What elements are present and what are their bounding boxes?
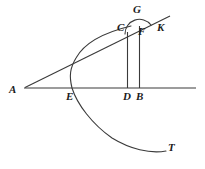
- label-point-k: K: [157, 22, 164, 33]
- parabola-curve-e-to-t: [70, 26, 166, 152]
- label-point-b: B: [136, 91, 143, 102]
- line-a-to-k: [25, 16, 170, 88]
- label-point-g: G: [133, 4, 141, 15]
- label-point-f: F: [138, 26, 145, 37]
- label-point-d: D: [123, 91, 131, 102]
- geometry-figure: A E D B C F G K T: [0, 0, 205, 169]
- label-point-e: E: [66, 91, 73, 102]
- label-point-a: A: [9, 84, 16, 95]
- label-point-t: T: [168, 142, 175, 153]
- label-point-c: C: [117, 22, 124, 33]
